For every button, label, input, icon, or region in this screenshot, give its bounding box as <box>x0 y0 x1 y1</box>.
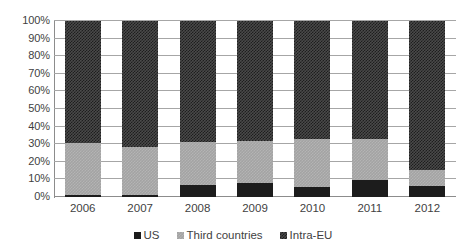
y-tick-label-80: 80% <box>2 50 50 61</box>
chart-legend: USThird countriesIntra-EU <box>0 226 466 244</box>
bar-segment-intra-eu-2007[interactable] <box>122 21 158 147</box>
bar-group-2012[interactable] <box>409 21 445 197</box>
x-tick-label-2009: 2009 <box>225 201 285 215</box>
bar-segment-intra-eu-2006[interactable] <box>65 21 101 143</box>
bar-segment-intra-eu-2009[interactable] <box>237 21 273 141</box>
y-tick-label-30: 30% <box>2 138 50 149</box>
bar-segment-us-2010[interactable] <box>294 187 330 197</box>
x-tick-label-2010: 2010 <box>282 201 342 215</box>
x-tick-label-2007: 2007 <box>110 201 170 215</box>
bar-group-2009[interactable] <box>237 21 273 197</box>
stacked-bar-chart: 0%10%20%30%40%50%60%70%80%90%100% 200620… <box>0 0 466 252</box>
bar-group-2006[interactable] <box>65 21 101 197</box>
bar-segment-us-2012[interactable] <box>409 186 445 197</box>
y-tick-label-0: 0% <box>2 191 50 202</box>
plot-area <box>54 21 456 197</box>
legend-label-intra-eu: Intra-EU <box>290 229 333 241</box>
x-tick-label-2012: 2012 <box>397 201 457 215</box>
bar-segment-intra-eu-2008[interactable] <box>180 21 216 142</box>
bar-segment-third-countries-2007[interactable] <box>122 147 158 195</box>
legend-item-us[interactable]: US <box>134 229 160 241</box>
legend-label-third-countries: Third countries <box>187 229 263 241</box>
legend-item-intra-eu[interactable]: Intra-EU <box>280 229 333 241</box>
legend-swatch-third-countries <box>177 232 184 239</box>
bar-segment-us-2007[interactable] <box>122 195 158 197</box>
bar-segment-intra-eu-2010[interactable] <box>294 21 330 139</box>
bar-segment-us-2006[interactable] <box>65 195 101 197</box>
x-tick-label-2008: 2008 <box>168 201 228 215</box>
bar-segment-us-2008[interactable] <box>180 185 216 197</box>
bar-group-2010[interactable] <box>294 21 330 197</box>
y-tick-label-90: 90% <box>2 33 50 44</box>
y-axis-labels: 0%10%20%30%40%50%60%70%80%90%100% <box>0 0 50 252</box>
y-tick-label-60: 60% <box>2 85 50 96</box>
bar-segment-us-2009[interactable] <box>237 183 273 197</box>
bar-segment-third-countries-2009[interactable] <box>237 141 273 183</box>
bar-segment-third-countries-2008[interactable] <box>180 142 216 184</box>
legend-swatch-intra-eu <box>280 232 287 239</box>
y-tick-label-40: 40% <box>2 121 50 132</box>
y-tick-label-20: 20% <box>2 156 50 167</box>
bar-group-2007[interactable] <box>122 21 158 197</box>
bar-segment-third-countries-2006[interactable] <box>65 143 101 195</box>
legend-swatch-us <box>134 232 141 239</box>
bar-segment-third-countries-2010[interactable] <box>294 139 330 187</box>
bar-segment-intra-eu-2012[interactable] <box>409 21 445 170</box>
bar-group-2011[interactable] <box>352 21 388 197</box>
legend-item-third-countries[interactable]: Third countries <box>177 229 263 241</box>
x-tick-label-2006: 2006 <box>53 201 113 215</box>
x-axis-labels: 2006200720082009201020112012 <box>54 201 456 219</box>
y-tick-label-10: 10% <box>2 173 50 184</box>
bar-segment-us-2011[interactable] <box>352 180 388 197</box>
x-tick-label-2011: 2011 <box>340 201 400 215</box>
bar-segment-intra-eu-2011[interactable] <box>352 21 388 139</box>
y-tick-label-70: 70% <box>2 68 50 79</box>
y-tick-label-100: 100% <box>2 15 50 26</box>
bar-group-2008[interactable] <box>180 21 216 197</box>
bar-segment-third-countries-2011[interactable] <box>352 139 388 180</box>
bar-segment-third-countries-2012[interactable] <box>409 170 445 187</box>
y-tick-label-50: 50% <box>2 103 50 114</box>
legend-label-us: US <box>144 229 160 241</box>
